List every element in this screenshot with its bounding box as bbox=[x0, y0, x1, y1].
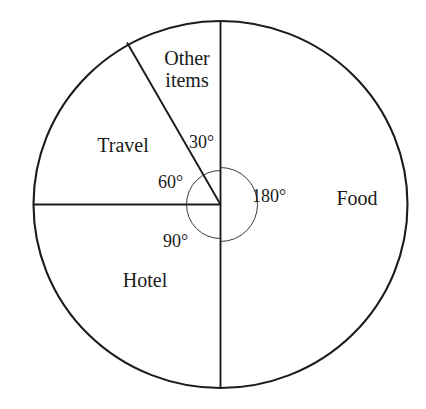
angle-label-60: 60° bbox=[158, 173, 183, 192]
slice-label-other-items-line2: items bbox=[151, 69, 223, 91]
slice-label-other-items-line1: Other bbox=[151, 47, 223, 69]
slice-label-hotel: Hotel bbox=[104, 270, 186, 291]
slice-label-travel: Travel bbox=[78, 135, 168, 156]
angle-arc-lower-left bbox=[187, 205, 221, 239]
slice-label-food: Food bbox=[318, 188, 396, 209]
pie-chart: Other items Travel Food Hotel 30° 60° 90… bbox=[0, 0, 426, 409]
angle-label-180: 180° bbox=[252, 187, 286, 206]
angle-label-90: 90° bbox=[163, 232, 188, 251]
slice-label-other-items: Other items bbox=[151, 47, 223, 92]
angle-label-30: 30° bbox=[189, 133, 214, 152]
